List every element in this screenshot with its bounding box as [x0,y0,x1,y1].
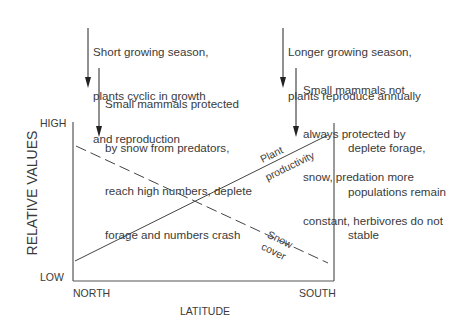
north-mammals-note: Small mammals protected by snow from pre… [105,68,252,257]
x-tick-south: SOUTH [299,287,336,299]
x-axis-label: LATITUDE [180,305,230,317]
x-tick-north: NORTH [73,287,110,299]
y-tick-low: LOW [40,271,64,283]
y-tick-high: HIGH [40,117,66,129]
south-mammals-note-continued: deplete forage, populations remain stabl… [348,112,446,257]
y-axis-label: RELATIVE VALUES [24,130,40,256]
arrow-icon [85,28,91,88]
arrow-icon [280,28,286,88]
